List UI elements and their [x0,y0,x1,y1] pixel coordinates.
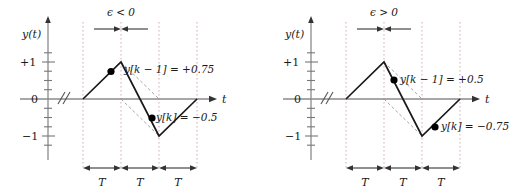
y-tick-zero: 0 [31,93,38,106]
epsilon-label: ϵ > 0 [370,6,398,18]
t-axis-label: t [485,93,490,106]
y-tick-plus-one: +1 [283,56,299,69]
y-tick-zero: 0 [294,93,301,106]
y-tick-plus-one: +1 [20,56,36,69]
sample-dot-prev [390,76,397,83]
annotation-sample-curr: y[k] = −0.5 [155,111,218,123]
left-plot-svg: y(t) +1 0 −1 t ϵ < 0 [0,0,262,195]
interval-label-1: T [361,176,370,189]
figure-container: y(t) +1 0 −1 t ϵ < 0 [0,0,525,195]
y-axis-label: y(t) [21,28,41,41]
y-axis-label: y(t) [284,28,304,41]
interval-label-2: T [399,176,408,189]
t-axis [20,96,217,102]
interval-label-1: T [98,176,107,189]
interval-arrows [83,165,197,171]
y-axis [308,16,314,160]
interval-label-3: T [174,176,183,189]
axis-break-icon [58,92,70,104]
interval-label-2: T [136,176,145,189]
right-plot-svg: y(t) +1 0 −1 t ϵ > 0 y[k − 1] = +0.5 y[k… [263,0,525,195]
epsilon-label: ϵ < 0 [107,6,135,18]
y-axis [45,16,51,160]
axis-break-icon [321,92,333,104]
t-axis [283,96,480,102]
annotation-sample-prev: y[k − 1] = +0.75 [123,63,215,75]
t-axis-label: t [222,93,227,106]
panel-epsilon-positive: y(t) +1 0 −1 t ϵ > 0 y[k − 1] = +0.5 y[k… [263,0,525,195]
panel-epsilon-negative: y(t) +1 0 −1 t ϵ < 0 [0,0,262,195]
sample-dot-curr [431,123,438,130]
sample-dot-prev [107,68,114,75]
y-tick-minus-one: −1 [22,130,38,143]
gridlines [83,22,197,168]
interval-arrows [346,165,460,171]
sample-dot-curr [148,114,155,121]
gridlines [346,22,460,168]
interval-label-3: T [437,176,446,189]
y-tick-minus-one: −1 [285,130,301,143]
annotation-sample-prev: y[k − 1] = +0.5 [399,73,484,85]
annotation-sample-curr: y[k] = −0.75 [440,120,509,132]
